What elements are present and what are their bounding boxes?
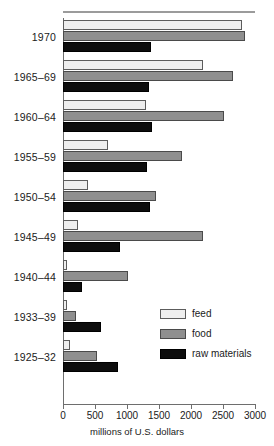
bar-raw-materials-1955-59 xyxy=(63,162,147,172)
y-axis-category-label: 1945–49 xyxy=(0,231,56,243)
bar-food-1933-39 xyxy=(63,311,76,321)
chart-title xyxy=(63,9,274,18)
bar-feed-1925-32 xyxy=(63,340,70,350)
y-axis-category-label: 1970 xyxy=(0,31,56,43)
bar-food-1960-64 xyxy=(63,111,224,121)
bar-food-1970 xyxy=(63,31,245,41)
bar-food-1940-44 xyxy=(63,271,128,281)
bar-feed-1945-49 xyxy=(63,220,78,230)
legend-label-raw-materials: raw materials xyxy=(192,348,251,359)
y-axis-category-label: 1955–59 xyxy=(0,151,56,163)
y-axis-category-label: 1950–54 xyxy=(0,191,56,203)
legend-label-feed: feed xyxy=(192,308,211,319)
bar-group xyxy=(63,140,255,178)
chart-legend: feed food raw materials xyxy=(160,306,251,366)
legend-label-food: food xyxy=(192,328,211,339)
legend-swatch-food-icon xyxy=(160,329,186,339)
bar-raw-materials-1960-64 xyxy=(63,122,152,132)
legend-item-feed: feed xyxy=(160,306,251,321)
x-axis-tick xyxy=(127,404,128,409)
legend-swatch-raw-materials-icon xyxy=(160,349,186,359)
x-axis-tick xyxy=(159,404,160,409)
bar-raw-materials-1950-54 xyxy=(63,202,150,212)
bar-raw-materials-1945-49 xyxy=(63,242,120,252)
x-axis-tick-label: 3000 xyxy=(225,410,274,421)
bar-group xyxy=(63,60,255,98)
x-axis-tick xyxy=(63,404,64,409)
x-axis-tick xyxy=(191,404,192,409)
x-axis-tick xyxy=(223,404,224,409)
legend-item-food: food xyxy=(160,326,251,341)
bar-group xyxy=(63,220,255,258)
bar-group xyxy=(63,180,255,218)
legend-swatch-feed-icon xyxy=(160,309,186,319)
chart-title-rule xyxy=(63,11,255,13)
y-axis-category-label: 1925–32 xyxy=(0,351,56,363)
y-axis-category-label: 1933–39 xyxy=(0,311,56,323)
bar-group xyxy=(63,20,255,58)
bar-raw-materials-1925-32 xyxy=(63,362,118,372)
bar-group xyxy=(63,260,255,298)
bar-food-1965-69 xyxy=(63,71,233,81)
bar-feed-1950-54 xyxy=(63,180,88,190)
bar-feed-1965-69 xyxy=(63,60,203,70)
y-axis-category-label: 1965–69 xyxy=(0,71,56,83)
bar-feed-1960-64 xyxy=(63,100,146,110)
x-axis-tick xyxy=(95,404,96,409)
bar-food-1925-32 xyxy=(63,351,97,361)
legend-item-raw-materials: raw materials xyxy=(160,346,251,361)
bar-raw-materials-1940-44 xyxy=(63,282,82,292)
bar-food-1950-54 xyxy=(63,191,156,201)
x-axis-tick xyxy=(255,404,256,409)
x-axis-label: millions of U.S. dollars xyxy=(0,426,274,437)
bar-food-1945-49 xyxy=(63,231,203,241)
bar-raw-materials-1965-69 xyxy=(63,82,149,92)
bar-feed-1933-39 xyxy=(63,300,67,310)
y-axis-category-label: 1960–64 xyxy=(0,111,56,123)
bar-feed-1940-44 xyxy=(63,260,67,270)
bar-food-1955-59 xyxy=(63,151,182,161)
bar-chart: 050010001500200025003000 millions of U.S… xyxy=(0,0,274,446)
bar-raw-materials-1933-39 xyxy=(63,322,101,332)
y-axis-category-label: 1940–44 xyxy=(0,271,56,283)
bar-feed-1955-59 xyxy=(63,140,108,150)
bar-raw-materials-1970 xyxy=(63,42,151,52)
bar-group xyxy=(63,100,255,138)
bar-feed-1970 xyxy=(63,20,242,30)
